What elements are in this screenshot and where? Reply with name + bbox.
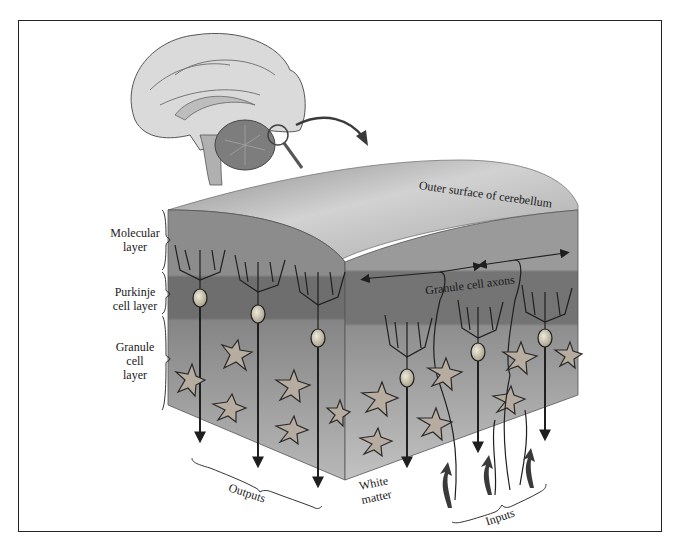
label-cell: cell (105, 354, 165, 368)
label-molecular-layer: Molecular layer (105, 226, 165, 254)
cerebellum-diagram (0, 0, 683, 548)
label-purkinje-layer: Purkinje cell layer (105, 285, 165, 313)
brain-sagittal-illustration (131, 33, 305, 185)
label-granule-layer: Granule cell layer (105, 340, 165, 382)
label-granule: Granule (105, 340, 165, 354)
curved-arrow-icon (296, 118, 368, 146)
label-layer: layer (105, 368, 165, 382)
label-purkinje: Purkinje (105, 285, 165, 299)
label-layer: layer (105, 240, 165, 254)
label-molecular: Molecular (105, 226, 165, 240)
label-cell-layer: cell layer (105, 299, 165, 313)
